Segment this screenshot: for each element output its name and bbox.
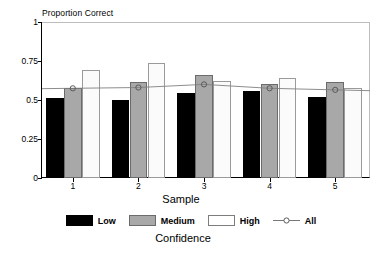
legend-title: Confidence: [0, 232, 382, 244]
x-axis-title-label: Sample: [162, 193, 199, 205]
legend-swatch-high: [208, 215, 235, 226]
legend-item-low: Low: [66, 215, 116, 226]
y-axis-title: Proportion Correct: [42, 8, 113, 18]
plot-area: [42, 22, 370, 178]
legend-label-low: Low: [98, 216, 116, 226]
x-axis-tick-label-2: 2: [136, 182, 141, 191]
chart-figure: Proportion Correct 10.750.50.250 12345 S…: [0, 0, 382, 263]
legend-line-marker-icon: [273, 215, 300, 226]
legend-swatch-medium: [129, 215, 156, 226]
x-axis-title: Sample: [0, 193, 382, 205]
legend-label-medium: Medium: [161, 216, 195, 226]
legend-item-all: All: [273, 215, 317, 226]
x-axis-tick-label-4: 4: [267, 182, 272, 191]
y-axis-tick-mark: [38, 178, 42, 179]
legend-label-high: High: [240, 216, 260, 226]
y-axis-tick-mark: [38, 139, 42, 140]
x-axis-tick-label-3: 3: [202, 182, 207, 191]
legend-swatch-low: [66, 215, 93, 226]
legend-item-high: High: [208, 215, 260, 226]
chart-legend: LowMediumHighAll: [0, 215, 382, 226]
all-series-line: [42, 22, 370, 178]
y-axis-tick-mark: [38, 61, 42, 62]
x-axis-tick-label-1: 1: [70, 182, 75, 191]
legend-item-medium: Medium: [129, 215, 195, 226]
x-axis-tick-label-5: 5: [333, 182, 338, 191]
legend-title-label: Confidence: [155, 232, 211, 244]
y-axis-tick-mark: [38, 22, 42, 23]
legend-label-all: All: [305, 216, 317, 226]
y-axis-tick-mark: [38, 100, 42, 101]
